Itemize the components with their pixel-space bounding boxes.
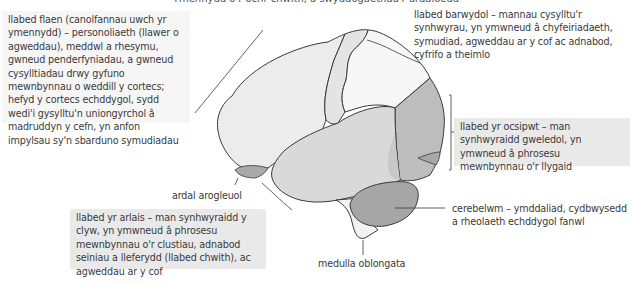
- label-frontal-lobe: llabed flaen (canolfannau uwch yr ymenny…: [2, 11, 190, 123]
- label-olfactory-area: ardal arogleuol: [172, 189, 262, 202]
- label-occipital-lobe: llabed yr ocsipwt – man synhwyraidd gwel…: [454, 118, 630, 166]
- label-temporal-lobe: llabed yr arlais – man synhwyraidd y cly…: [70, 209, 266, 269]
- olfactory-region: [235, 166, 268, 178]
- label-parietal-lobe: llabed barwydol – mannau cysylltu'r synh…: [414, 8, 628, 62]
- label-medulla-oblongata: medulla oblongata: [318, 257, 418, 270]
- label-cerebellum: cerebelwm – ymddaliad, cydbwysedd a rheo…: [452, 202, 632, 229]
